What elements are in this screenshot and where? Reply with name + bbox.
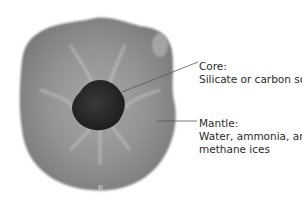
comet-nucleus-diagram: Core: Silicate or carbon soot Mantle: Wa… — [0, 0, 302, 200]
mantle-label: Mantle: Water, ammonia, and methane ices — [199, 117, 302, 156]
mantle-label-title: Mantle: — [199, 117, 302, 130]
mantle-label-description-1: Water, ammonia, and — [199, 130, 302, 143]
nucleus-illustration — [0, 0, 302, 200]
core-label: Core: Silicate or carbon soot — [199, 60, 302, 86]
mantle-label-description-2: methane ices — [199, 143, 302, 156]
core-label-description: Silicate or carbon soot — [199, 73, 302, 86]
core-label-title: Core: — [199, 60, 302, 73]
